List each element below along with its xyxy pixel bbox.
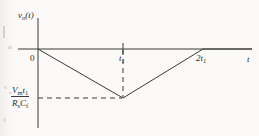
- tick-label-2t1: 2t1: [196, 54, 206, 63]
- tick-label-2t1-symbol: 2t: [196, 53, 203, 63]
- y-axis-label-subscript: o: [22, 14, 25, 21]
- peak-amplitude-numerator: Vmt1: [11, 85, 29, 97]
- denominator-symbol-r: R: [12, 98, 18, 108]
- peak-amplitude-label: Vmt1 RsCf: [11, 85, 29, 108]
- output-waveform-trace: [38, 49, 252, 98]
- x-axis-label: t: [247, 55, 250, 64]
- origin-tick-label: 0: [30, 54, 35, 63]
- tick-label-t1: t1: [119, 54, 125, 63]
- denominator-subscript-f: f: [26, 102, 28, 109]
- numerator-symbol-v: V: [12, 85, 18, 95]
- numerator-subscript-1: 1: [25, 89, 28, 96]
- integrator-output-waveform-figure: vo(t) t 0 t1 2t1 Vmt1 RsCf: [0, 0, 259, 136]
- numerator-subscript-m: m: [18, 89, 23, 96]
- tick-label-2t1-subscript: 1: [203, 57, 206, 64]
- y-axis-label-argument: (t): [25, 10, 34, 20]
- y-axis-label: vo(t): [18, 11, 34, 20]
- tick-label-t1-subscript: 1: [122, 57, 125, 64]
- denominator-subscript-s: s: [18, 102, 21, 109]
- waveform-plot-area: [0, 0, 259, 136]
- peak-amplitude-denominator: RsCf: [11, 97, 29, 108]
